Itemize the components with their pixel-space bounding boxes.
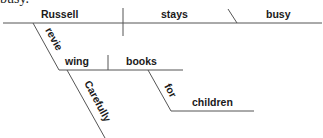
word-prep-object: children bbox=[192, 96, 233, 108]
word-preposition: for bbox=[162, 81, 179, 99]
word-subject: Russell bbox=[41, 8, 78, 20]
sentence-diagram: Russell stays busy revie wing books Care… bbox=[0, 0, 323, 138]
word-gerund-object: books bbox=[126, 55, 157, 67]
word-gerund-part2: wing bbox=[64, 55, 89, 67]
word-verb: stays bbox=[161, 8, 188, 20]
word-adverb: Carefully bbox=[82, 78, 114, 123]
complement-divider bbox=[228, 9, 237, 23]
word-predicate-adjective: busy bbox=[266, 8, 291, 20]
